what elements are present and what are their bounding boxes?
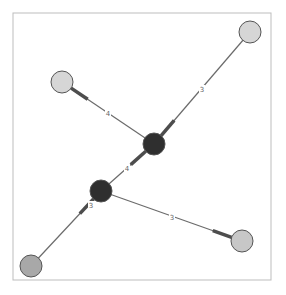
edge-label: 4 — [105, 109, 111, 118]
node-B — [90, 180, 112, 202]
edge-label: 3 — [169, 213, 175, 222]
node-C — [239, 21, 261, 43]
edge-label: 4 — [124, 164, 130, 173]
edge-label: 3 — [88, 201, 94, 210]
svg-text:3: 3 — [89, 202, 93, 210]
node-D — [51, 71, 73, 93]
edge-arrowhead — [131, 151, 146, 164]
network-graph: 34433 — [0, 0, 286, 295]
edge-arrowhead — [213, 231, 232, 238]
svg-text:4: 4 — [125, 165, 130, 173]
edge-arrowhead — [161, 120, 174, 135]
node-F — [20, 255, 42, 277]
edge-label: 3 — [199, 85, 205, 94]
svg-text:3: 3 — [170, 214, 174, 222]
svg-text:4: 4 — [106, 110, 111, 118]
svg-text:3: 3 — [200, 86, 204, 94]
edge-arrowhead — [71, 88, 88, 99]
diagram-canvas: 34433 — [0, 0, 286, 295]
node-E — [231, 230, 253, 252]
edges-layer — [31, 32, 250, 266]
node-A — [143, 133, 165, 155]
